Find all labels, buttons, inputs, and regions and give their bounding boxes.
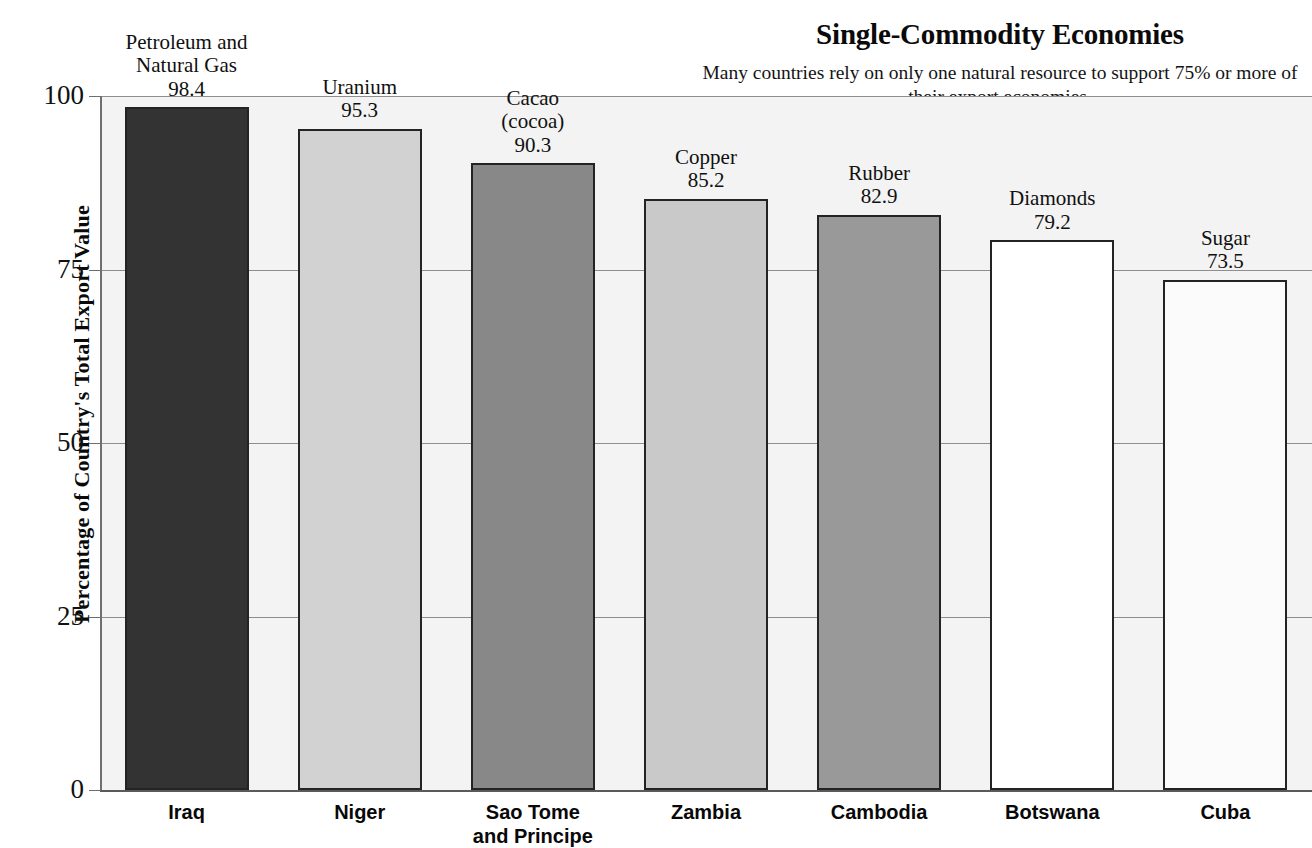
bar[interactable] — [471, 163, 595, 790]
bar[interactable] — [125, 107, 249, 790]
y-tick-label: 50 — [57, 429, 84, 456]
y-tick-label: 75 — [57, 256, 84, 283]
bar-value-label: Sugar 73.5 — [1085, 227, 1312, 274]
x-axis-line — [100, 790, 1312, 792]
x-axis-category-label: Cuba — [1085, 801, 1312, 825]
y-axis-title: Percentage of Country's Total Export Val… — [69, 64, 95, 764]
y-tick-mark — [89, 270, 101, 271]
y-tick-label: 25 — [57, 603, 84, 630]
y-tick-label: 0 — [71, 776, 85, 803]
bar[interactable] — [1163, 280, 1287, 790]
bar[interactable] — [298, 129, 422, 790]
bar[interactable] — [644, 199, 768, 790]
bar[interactable] — [990, 240, 1114, 790]
y-tick-mark — [89, 617, 101, 618]
y-tick-mark — [89, 790, 101, 791]
bar[interactable] — [817, 215, 941, 790]
chart-header: Single-Commodity Economies Many countrie… — [700, 18, 1300, 109]
chart-title: Single-Commodity Economies — [700, 18, 1300, 51]
y-tick-mark — [89, 443, 101, 444]
